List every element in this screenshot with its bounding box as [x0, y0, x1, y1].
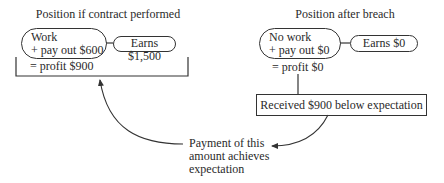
- right-profit: = profit $0: [272, 61, 323, 74]
- note-text: Payment of this amount achieves expectat…: [189, 137, 269, 176]
- right-action-line2: + pay out $0: [269, 44, 340, 57]
- left-action-line2: + pay out $600: [31, 44, 106, 57]
- shortfall-box: Received $900 below expectation: [256, 94, 427, 116]
- shortfall-arrow: [272, 115, 328, 146]
- left-title: Position if contract performed: [22, 7, 194, 22]
- right-title: Position after breach: [260, 7, 430, 22]
- right-action-pill: No work + pay out $0: [259, 28, 341, 59]
- payment-arrow: [100, 80, 183, 144]
- left-earns-pill: Earns $1,500: [113, 36, 176, 52]
- left-action-pill: Work + pay out $600: [21, 28, 107, 59]
- left-profit: = profit $900: [30, 60, 93, 73]
- note-line3: expectation: [189, 163, 269, 176]
- right-earns-pill: Earns $0: [350, 35, 418, 52]
